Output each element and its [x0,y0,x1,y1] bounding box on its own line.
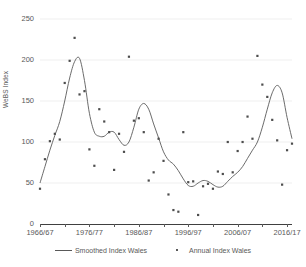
data-point-marker [93,165,95,167]
data-point-marker [261,84,263,86]
data-point-marker [133,120,135,122]
x-axis-tick-label: 2006/07 [224,228,251,238]
x-axis-tick-label: 1966/67 [26,228,53,238]
data-point-marker [103,120,105,122]
data-point-marker [88,148,90,150]
plot-svg [40,19,292,224]
data-point-marker [123,151,125,153]
data-point-marker [172,209,174,211]
x-axis-tick-labels: 1966/671976/771986/871996/972006/072016/… [0,228,306,240]
data-point-marker [291,143,293,145]
x-axis-tick [139,224,140,227]
y-axis-tick-label: 0 [4,220,34,228]
data-point-marker [157,138,159,140]
data-point-marker [232,171,234,173]
plot-area [40,19,292,224]
data-point-marker [83,90,85,92]
legend-label: Smoothed Index Wales [75,247,147,254]
data-point-marker [276,139,278,141]
data-point-marker [281,184,283,186]
x-axis-line [40,224,292,225]
x-axis-tick-label: 1986/87 [125,228,152,238]
data-point-marker [128,56,130,58]
data-point-marker [138,117,140,119]
legend-dot-icon [169,247,186,254]
data-point-marker [217,170,219,172]
x-axis-tick-label: 1976/77 [76,228,103,238]
data-point-marker [227,141,229,143]
data-point-marker [69,60,71,62]
data-point-marker [251,138,253,140]
data-point-marker [241,141,243,143]
chart-container: WeBS Index 050100150200250 1966/671976/7… [0,0,306,267]
legend-entry[interactable]: Smoothed Index Wales [55,247,147,254]
legend-label: Annual Index Wales [189,247,251,254]
data-point-marker [271,119,273,121]
x-axis-tick [40,224,41,227]
data-point-marker [73,37,75,39]
data-point-marker [237,150,239,152]
smoothed-index-line [40,57,292,187]
data-point-marker [256,55,258,57]
data-point-marker [222,173,224,175]
x-axis-tick [238,224,239,227]
x-axis-tick [213,224,214,227]
data-point-marker [108,131,110,133]
data-point-marker [59,138,61,140]
data-point-marker [167,193,169,195]
annual-index-markers [39,37,293,216]
x-axis-tick [89,224,90,227]
data-point-marker [212,188,214,190]
data-point-marker [64,82,66,84]
y-axis-tick-label: 100 [4,138,34,146]
x-axis-tick [287,224,288,227]
y-axis-tick-label: 50 [4,179,34,187]
x-axis-tick [262,224,263,227]
data-point-marker [182,131,184,133]
legend-entry[interactable]: Annual Index Wales [169,247,251,254]
x-axis-tick-label: 1996/97 [175,228,202,238]
data-point-marker [177,211,179,213]
x-axis-tick [65,224,66,227]
y-axis-tick-label: 150 [4,97,34,105]
gridlines [40,19,292,183]
data-point-marker [44,158,46,160]
data-point-marker [143,131,145,133]
x-axis-tick [188,224,189,227]
data-point-marker [187,181,189,183]
chart-legend: Smoothed Index WalesAnnual Index Wales [0,243,306,257]
data-point-marker [148,179,150,181]
data-point-marker [39,188,41,190]
data-point-marker [78,93,80,95]
data-point-marker [286,149,288,151]
data-point-marker [197,214,199,216]
data-point-marker [49,140,51,142]
data-point-marker [207,183,209,185]
x-axis-tick [164,224,165,227]
data-point-marker [98,108,100,110]
data-point-marker [113,169,115,171]
data-point-marker [153,171,155,173]
data-point-marker [266,96,268,98]
data-point-marker [162,160,164,162]
data-point-marker [202,185,204,187]
data-point-marker [54,133,56,135]
data-point-marker [246,115,248,117]
y-axis-tick-label: 250 [4,15,34,23]
x-axis-tick-label: 2016/17 [273,228,300,238]
data-point-marker [192,180,194,182]
y-axis-tick-labels: 050100150200250 [0,19,34,224]
legend-line-icon [55,250,72,251]
x-axis-tick [114,224,115,227]
y-axis-tick-label: 200 [4,56,34,64]
data-point-marker [118,133,120,135]
